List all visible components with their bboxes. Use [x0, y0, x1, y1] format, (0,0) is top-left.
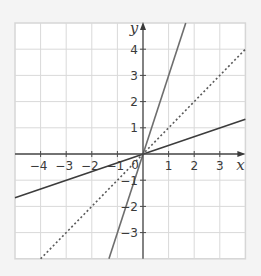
line-graph: −4−3−2−1123−3−2−112340xy — [0, 0, 261, 276]
y-tick-label: 4 — [130, 43, 138, 57]
x-tick-label: −3 — [55, 159, 73, 173]
y-tick-label: 3 — [130, 69, 138, 83]
x-tick-label: −1 — [107, 159, 125, 173]
x-tick-label: 1 — [165, 159, 173, 173]
y-tick-label: 1 — [130, 121, 138, 135]
y-tick-label: −2 — [120, 200, 138, 214]
y-tick-label: −3 — [120, 226, 138, 240]
origin-label: 0 — [131, 158, 139, 172]
y-tick-label: −1 — [120, 174, 138, 188]
x-tick-label: −2 — [81, 159, 99, 173]
plot-area — [15, 23, 245, 259]
x-tick-label: 3 — [216, 159, 224, 173]
x-axis-label: x — [236, 156, 245, 174]
x-tick-label: −4 — [30, 159, 48, 173]
y-axis-label: y — [129, 19, 139, 37]
x-tick-label: 2 — [190, 159, 198, 173]
y-tick-label: 2 — [130, 95, 138, 109]
